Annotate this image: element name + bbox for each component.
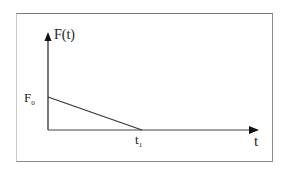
y-axis-label: F(t): [54, 28, 75, 42]
x-axis-label: t: [254, 134, 258, 149]
force-line: [48, 97, 142, 130]
y-axis-arrow-icon: [45, 32, 52, 41]
t1-sub: 1: [139, 141, 143, 149]
t1-label: t1: [135, 133, 142, 149]
f0-sub: 0: [31, 99, 35, 107]
f0-label: F0: [24, 91, 35, 107]
force-time-diagram: [0, 0, 287, 172]
